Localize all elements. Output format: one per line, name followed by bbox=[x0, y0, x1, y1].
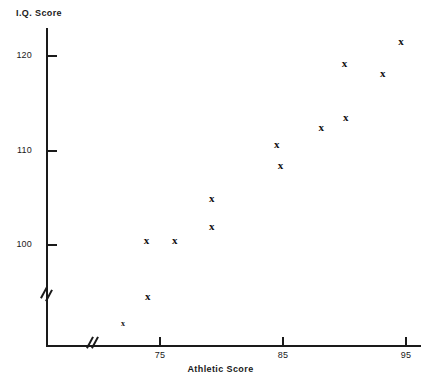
y-tick-110 bbox=[48, 150, 57, 152]
data-point: x bbox=[142, 291, 154, 303]
data-point: x bbox=[271, 139, 283, 151]
data-point: x bbox=[206, 221, 218, 233]
data-point: x bbox=[395, 36, 407, 48]
y-tick-label-100: 100 bbox=[0, 239, 32, 249]
data-point: x bbox=[339, 58, 351, 70]
y-tick-100 bbox=[48, 244, 57, 246]
data-point: x bbox=[140, 235, 152, 247]
y-axis-title: I.Q. Score bbox=[16, 8, 62, 18]
y-axis-break-icon bbox=[39, 286, 55, 304]
x-tick-85 bbox=[282, 337, 284, 346]
x-tick-75 bbox=[159, 337, 161, 346]
x-axis-title: Athletic Score bbox=[0, 364, 441, 374]
x-tick-label-85: 85 bbox=[268, 350, 298, 360]
x-tick-label-95: 95 bbox=[391, 350, 421, 360]
scatter-plot-figure: I.Q. Score 100110120 758595 xxxxxxxxxxxx… bbox=[0, 0, 441, 382]
y-tick-120 bbox=[48, 55, 57, 57]
data-point: x bbox=[169, 235, 181, 247]
data-point: x bbox=[340, 112, 352, 124]
y-tick-label-110: 110 bbox=[0, 145, 32, 155]
data-point: x bbox=[206, 193, 218, 205]
data-point: x bbox=[275, 160, 287, 172]
x-tick-95 bbox=[405, 337, 407, 346]
data-point: x bbox=[377, 68, 389, 80]
x-axis-line bbox=[46, 345, 421, 347]
x-tick-label-75: 75 bbox=[145, 350, 175, 360]
y-tick-label-120: 120 bbox=[0, 50, 32, 60]
x-axis-break-icon bbox=[86, 336, 102, 354]
data-point: x bbox=[315, 122, 327, 134]
data-point: x bbox=[117, 320, 129, 332]
